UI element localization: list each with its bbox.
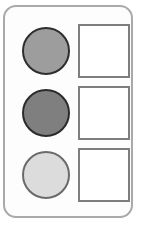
shape-row-2	[0, 86, 143, 142]
answer-box-row-1[interactable]	[78, 24, 130, 78]
figure-canvas	[0, 0, 143, 225]
answer-box-row-3[interactable]	[78, 148, 130, 202]
shape-row-1	[0, 24, 143, 80]
circle-shape-row-1[interactable]	[22, 27, 70, 75]
shape-row-3	[0, 148, 143, 204]
circle-shape-row-3[interactable]	[22, 151, 70, 199]
answer-box-row-2[interactable]	[78, 86, 130, 140]
circle-shape-row-2[interactable]	[22, 89, 70, 137]
